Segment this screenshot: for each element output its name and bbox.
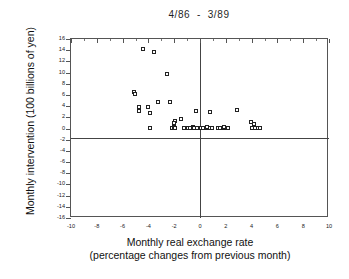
x-tick-minor-mark [84, 39, 85, 41]
y-tick-label: 8 [62, 80, 65, 86]
x-tick-label: -10 [67, 223, 75, 229]
plot-area: 1614121086420-2-4-6-8-10-12-14-16 -10-8-… [70, 38, 328, 217]
x-tick-mark [148, 39, 149, 43]
y-axis-title: Monthly intervention (100 billions of ye… [24, 19, 36, 224]
y-tick-mark [66, 50, 71, 51]
x-tick-label: 10 [326, 223, 332, 229]
scatter-point [156, 100, 160, 104]
y-tick-label: -16 [57, 214, 65, 220]
y-tick-label: 12 [59, 57, 65, 63]
x-tick-minor-mark [136, 39, 137, 41]
x-tick-minor-mark [290, 39, 291, 41]
scatter-point [210, 126, 214, 130]
x-tick-mark [97, 39, 98, 43]
scatter-point [172, 121, 176, 125]
scatter-point [146, 105, 150, 109]
x-tick-mark [277, 39, 278, 43]
y-tick-label: 10 [59, 69, 65, 75]
chart-figure: 4/86 - 3/89 Monthly intervention (100 bi… [0, 0, 349, 279]
scatter-point [141, 47, 145, 51]
y-tick-mark [66, 129, 71, 130]
scatter-point [235, 108, 239, 112]
scatter-point [194, 109, 198, 113]
x-tick-label: 6 [276, 223, 279, 229]
x-tick-label: -2 [172, 223, 177, 229]
y-tick-mark [66, 151, 71, 152]
scatter-point [165, 72, 169, 76]
x-tick-label: -6 [120, 223, 125, 229]
x-axis-title-line2: (percentage changes from previous month) [40, 249, 340, 262]
scatter-point [173, 126, 177, 130]
scatter-point [148, 126, 152, 130]
y-tick-label: 4 [62, 102, 65, 108]
x-tick-label: -4 [146, 223, 151, 229]
x-axis-title: Monthly real exchange rate (percentage c… [40, 236, 340, 262]
y-tick-mark [66, 218, 71, 219]
x-tick-mark [252, 39, 253, 43]
y-tick-label: -4 [60, 147, 65, 153]
scatter-point [252, 122, 256, 126]
y-tick-mark [66, 84, 71, 85]
x-tick-mark [303, 39, 304, 43]
x-tick-label: 2 [224, 223, 227, 229]
x-tick-minor-mark [187, 39, 188, 41]
x-tick-label: 8 [302, 223, 305, 229]
y-tick-label: -14 [57, 203, 65, 209]
scatter-point [179, 117, 183, 121]
x-axis-title-line1: Monthly real exchange rate [127, 236, 254, 248]
y-tick-label: 2 [62, 113, 65, 119]
y-tick-mark [66, 73, 71, 74]
y-tick-mark [66, 162, 71, 163]
x-tick-minor-mark [316, 39, 317, 41]
x-tick-minor-mark [110, 39, 111, 41]
chart-title: 4/86 - 3/89 [70, 9, 328, 20]
scatter-point [258, 126, 262, 130]
x-tick-minor-mark [161, 39, 162, 41]
scatter-point [137, 109, 141, 113]
x-tick-label: 4 [250, 223, 253, 229]
y-tick-label: 0 [62, 125, 65, 131]
x-tick-mark [123, 39, 124, 43]
scatter-point [208, 110, 212, 114]
x-tick-minor-mark [239, 39, 240, 41]
x-tick-minor-mark [265, 39, 266, 41]
y-tick-mark [66, 140, 71, 141]
y-tick-label: -6 [60, 158, 65, 164]
y-tick-label: 16 [59, 35, 65, 41]
scatter-point [168, 100, 172, 104]
y-tick-mark [66, 95, 71, 96]
y-tick-label: -8 [60, 169, 65, 175]
x-tick-label: -8 [94, 223, 99, 229]
x-tick-mark [226, 39, 227, 43]
y-tick-label: -2 [60, 136, 65, 142]
y-tick-mark [66, 196, 71, 197]
y-tick-label: 14 [59, 46, 65, 52]
y-tick-mark [66, 173, 71, 174]
x-tick-label: 0 [198, 223, 201, 229]
x-tick-mark [200, 39, 201, 43]
scatter-point [226, 126, 230, 130]
scatter-point [133, 92, 137, 96]
y-tick-mark [66, 207, 71, 208]
y-tick-label: -12 [57, 192, 65, 198]
x-tick-mark [71, 39, 72, 43]
y-tick-mark [66, 61, 71, 62]
scatter-point [148, 111, 152, 115]
x-tick-mark [174, 39, 175, 43]
y-tick-mark [66, 117, 71, 118]
y-tick-label: 6 [62, 91, 65, 97]
scatter-point [137, 105, 141, 109]
y-tick-mark [66, 106, 71, 107]
x-tick-mark [329, 39, 330, 43]
x-tick-minor-mark [213, 39, 214, 41]
y-tick-label: -10 [57, 180, 65, 186]
scatter-point [152, 50, 156, 54]
y-tick-mark [66, 184, 71, 185]
